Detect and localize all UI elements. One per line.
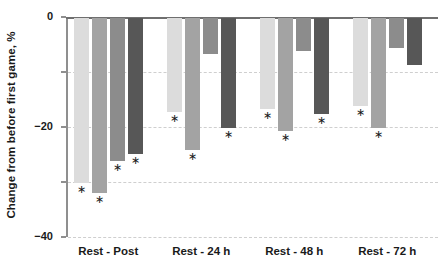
- significance-marker: ∗: [95, 196, 104, 202]
- significance-marker: ∗: [263, 112, 272, 118]
- y-tick-label-0: 0: [47, 10, 53, 22]
- bar-chart: Change from before first game, % 0−20−40…: [0, 0, 446, 275]
- significance-marker: ∗: [281, 134, 290, 140]
- y-tick-label-2: −40: [34, 230, 53, 242]
- significance-marker: ∗: [224, 131, 233, 137]
- bar: [74, 18, 89, 183]
- x-axis-label: Rest - 72 h: [358, 245, 416, 257]
- bar: [203, 18, 218, 54]
- bar: [371, 18, 386, 128]
- bar: [221, 18, 236, 128]
- y-tick-2: −40: [61, 126, 66, 128]
- y-axis-title: Change from before first game, %: [0, 0, 22, 250]
- x-axis-label: Rest - Post: [78, 245, 138, 257]
- bar: [353, 18, 368, 106]
- bar: [296, 18, 311, 51]
- bar: [260, 18, 275, 109]
- significance-marker: ∗: [356, 109, 365, 115]
- bar: [185, 18, 200, 150]
- significance-marker: ∗: [374, 131, 383, 137]
- x-axis-label: Rest - 48 h: [265, 245, 323, 257]
- bar: [314, 18, 329, 114]
- gridline-4: [68, 237, 438, 238]
- bar: [407, 18, 422, 65]
- significance-marker: ∗: [131, 157, 140, 163]
- bar: [110, 18, 125, 161]
- y-tick-0: 0: [61, 16, 66, 18]
- y-tick-1: −20: [61, 71, 66, 73]
- y-tick-label-1: −20: [34, 120, 53, 132]
- y-axis-title-text: Change from before first game, %: [5, 31, 17, 218]
- significance-marker: ∗: [170, 115, 179, 121]
- significance-marker: ∗: [188, 153, 197, 159]
- bar: [278, 18, 293, 131]
- significance-marker: ∗: [317, 117, 326, 123]
- significance-marker: ∗: [77, 186, 86, 192]
- x-axis-label: Rest - 24 h: [172, 245, 230, 257]
- significance-marker: ∗: [113, 164, 122, 170]
- y-tick-4: −80: [61, 236, 66, 238]
- plot-area: 0−20−40−60−80 ∗∗∗∗∗∗∗∗∗∗∗∗: [66, 17, 438, 237]
- bar: [128, 18, 143, 154]
- y-tick-3: −60: [61, 181, 66, 183]
- bar: [167, 18, 182, 112]
- bar: [92, 18, 107, 193]
- bar: [389, 18, 404, 48]
- gridline-3: [68, 182, 438, 183]
